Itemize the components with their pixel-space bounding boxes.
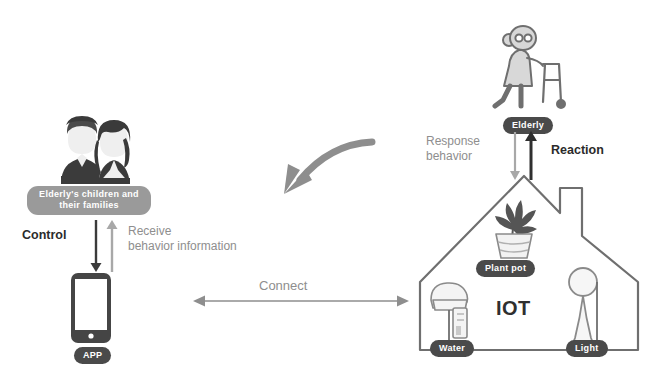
family-label: Elderly's children and their families (27, 186, 151, 215)
app-label: APP (74, 347, 111, 364)
family-couple-icon (48, 112, 144, 184)
light-label: Light (566, 340, 608, 357)
elderly-walker-icon (489, 24, 567, 116)
potted-plant-icon (483, 190, 545, 260)
diagram-canvas: Elderly's children and their families Co… (0, 0, 657, 381)
connect-label: Connect (259, 278, 307, 294)
smartphone-icon (70, 272, 112, 344)
floor-lamp-icon (563, 266, 613, 350)
iot-label: IOT (496, 297, 531, 320)
response-behavior-label: Response behavior (426, 134, 480, 164)
control-label: Control (22, 228, 66, 242)
plant-pot-label: Plant pot (476, 260, 535, 277)
connect-arrow (192, 294, 410, 308)
curved-arrow-icon (272, 136, 376, 200)
control-receive-arrows (88, 218, 122, 274)
receive-label: Receive behavior information (128, 224, 237, 254)
reaction-label: Reaction (551, 143, 604, 157)
water-label: Water (430, 340, 474, 357)
